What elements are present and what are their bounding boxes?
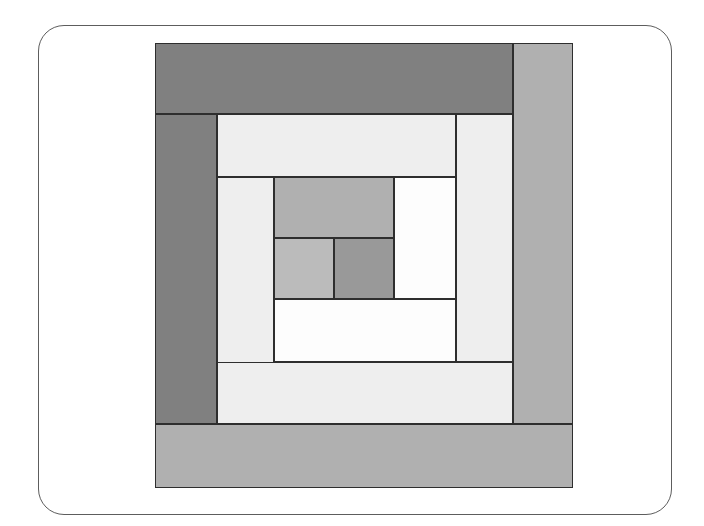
round-1-center-left-gray	[274, 238, 334, 299]
card-frame	[38, 25, 672, 515]
round-2-center-top-gray	[274, 177, 394, 238]
round-1-center-right-gray	[334, 238, 394, 299]
round-5-right-medium-strip	[513, 43, 573, 424]
round-4-top-light-strip	[217, 114, 456, 177]
screenshot-root	[0, 0, 704, 526]
round-5-top-dark-strip	[155, 43, 513, 114]
quilt-block-diagram	[155, 43, 573, 488]
round-5-bottom-medium-strip	[155, 424, 573, 488]
round-3-right-white-strip	[394, 177, 456, 299]
round-5-left-dark-strip	[155, 114, 217, 424]
round-4-right-light-strip	[456, 114, 513, 362]
round-3-bottom-white-strip	[274, 299, 456, 362]
round-4-bottom-light-strip	[217, 362, 513, 424]
